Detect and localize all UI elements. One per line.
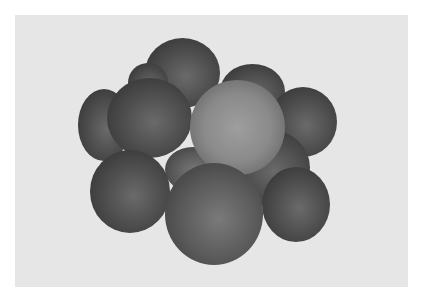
photo (15, 15, 408, 287)
fruit-lower-left (90, 150, 170, 233)
fruit-upper-left (107, 78, 192, 158)
fruit-lower-right (262, 167, 330, 242)
fruit-large-bottom (165, 163, 263, 265)
